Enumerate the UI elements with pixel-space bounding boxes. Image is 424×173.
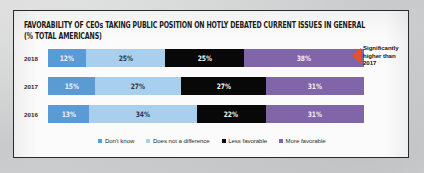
bar-segment[interactable]: 31% <box>266 77 364 95</box>
legend-swatch-icon <box>146 139 150 143</box>
row-year-label: 2018 <box>14 55 48 62</box>
chart-title-line-1: FAVORABILITY OF CEOs TAKING PUBLIC POSIT… <box>24 20 344 31</box>
bar-segment-label: 38% <box>297 54 311 63</box>
bar-segment[interactable]: 15% <box>48 77 95 95</box>
bar-segment[interactable]: 27% <box>181 77 266 95</box>
chart-row-2016: 201613%34%22%31% <box>14 105 409 123</box>
bar-segment-label: 22% <box>224 110 238 119</box>
legend-item[interactable]: More favorable <box>279 137 325 144</box>
legend-label: Does not a difference <box>153 137 210 144</box>
legend-swatch-icon <box>222 139 226 143</box>
chart-title-line-2: (% TOTAL AMERICANS) <box>24 31 344 42</box>
bar-segment-label: 27% <box>131 82 145 91</box>
bar-segment[interactable]: 38% <box>244 49 364 67</box>
row-year-label: 2017 <box>14 83 48 90</box>
bar-segment-label: 25% <box>118 54 132 63</box>
bar-segment-label: 34% <box>136 110 150 119</box>
bar-segment[interactable]: 27% <box>95 77 180 95</box>
chart-row-2017: 201715%27%27%31% <box>14 77 409 95</box>
legend-item[interactable]: Does not a difference <box>146 137 209 144</box>
bar-segment[interactable]: 25% <box>165 49 244 67</box>
stacked-bar: 12%25%25%38% <box>48 49 364 67</box>
bar-segment-label: 25% <box>197 54 211 63</box>
stacked-bar: 13%34%22%31% <box>48 105 364 123</box>
bar-segment-label: 15% <box>65 82 79 91</box>
legend-item[interactable]: Don't know <box>98 137 134 144</box>
bar-segment-label: 13% <box>62 110 76 119</box>
callout-arrow-icon <box>352 48 361 64</box>
legend-label: More favorable <box>286 137 326 144</box>
stacked-bar: 15%27%27%31% <box>48 77 364 95</box>
bar-segment-label: 31% <box>308 82 322 91</box>
chart-card: FAVORABILITY OF CEOs TAKING PUBLIC POSIT… <box>13 10 409 158</box>
callout-label: Significantly higher than 2017 <box>363 44 409 67</box>
bar-segment[interactable]: 22% <box>197 105 267 123</box>
chart-legend: Don't knowDoes not a differenceLess favo… <box>14 137 409 144</box>
bar-segment[interactable]: 12% <box>48 49 86 67</box>
legend-swatch-icon <box>279 139 283 143</box>
row-year-label: 2016 <box>14 111 48 118</box>
page-background: FAVORABILITY OF CEOs TAKING PUBLIC POSIT… <box>0 0 424 173</box>
bar-segment[interactable]: 31% <box>266 105 364 123</box>
legend-swatch-icon <box>98 139 102 143</box>
chart-row-2018: 201812%25%25%38% <box>14 49 409 67</box>
chart-plot-area: 201812%25%25%38%201715%27%27%31%201613%3… <box>14 47 409 131</box>
legend-label: Don't know <box>105 137 134 144</box>
bar-segment-label: 12% <box>60 54 74 63</box>
bar-segment[interactable]: 34% <box>89 105 196 123</box>
bar-segment[interactable]: 13% <box>48 105 89 123</box>
chart-title: FAVORABILITY OF CEOs TAKING PUBLIC POSIT… <box>24 20 396 41</box>
legend-label: Less favorable <box>228 137 267 144</box>
annotation-callout: Significantly higher than 2017 <box>352 47 409 77</box>
bar-segment-label: 27% <box>216 82 230 91</box>
bar-segment-label: 31% <box>308 110 322 119</box>
legend-item[interactable]: Less favorable <box>222 137 267 144</box>
bar-segment[interactable]: 25% <box>86 49 165 67</box>
